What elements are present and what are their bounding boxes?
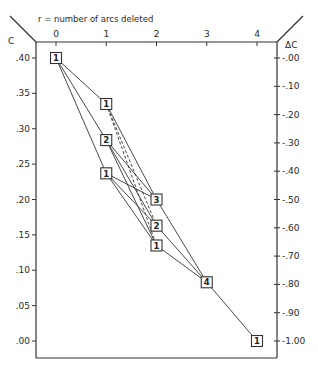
y-tick-label: .35 [16, 88, 30, 98]
node-label: 2 [154, 221, 160, 231]
y-tick-label: .20 [16, 195, 31, 205]
y-tick-label: .30 [16, 124, 31, 134]
node-box: 1 [252, 336, 263, 347]
right-y-tick-label: -.80 [282, 279, 300, 289]
node-label: 1 [154, 241, 160, 251]
right-y-tick-label: -.10 [282, 81, 300, 91]
chart-title: r = number of arcs deleted [38, 14, 153, 24]
node-box: 1 [51, 53, 62, 64]
plot-frame [10, 16, 303, 358]
x-tick-label: 3 [204, 29, 210, 39]
node-box: 3 [151, 194, 162, 205]
y-tick-label: .00 [16, 336, 31, 346]
y-axis-ticks-right: -.00-.10-.20-.30-.40-.50-.60-.70-.80-.90… [274, 53, 306, 346]
edge-line [106, 173, 156, 245]
x-tick-label: 2 [154, 29, 160, 39]
right-y-tick-label: -.90 [282, 308, 300, 318]
node-label: 4 [204, 277, 210, 287]
node-label: 1 [53, 53, 59, 63]
node-box: 1 [151, 240, 162, 251]
edge-line [157, 226, 207, 283]
right-y-tick-label: -.70 [282, 251, 300, 261]
node-box: 1 [101, 98, 112, 109]
node-label: 1 [254, 336, 260, 346]
right-y-tick-label: -.50 [282, 195, 300, 205]
node-box: 2 [151, 220, 162, 231]
right-y-tick-label: -.00 [282, 53, 300, 63]
right-axis-label: ΔC [285, 40, 297, 50]
node-label: 2 [103, 135, 109, 145]
y-tick-label: .05 [16, 301, 30, 311]
edge-line [56, 58, 106, 173]
edge-line [106, 173, 156, 199]
x-axis-ticks: 01234 [53, 29, 260, 46]
edge-line [56, 58, 106, 140]
y-tick-label: .40 [16, 53, 31, 63]
corner-diagonal-right [277, 16, 303, 42]
edge-line [106, 104, 156, 226]
right-y-tick-label: -1.00 [282, 336, 306, 346]
right-y-tick-label: -.40 [282, 166, 300, 176]
edge-line [157, 200, 207, 283]
edge-line [106, 104, 156, 200]
x-tick-label: 1 [103, 29, 109, 39]
edge-line [106, 140, 156, 199]
right-y-tick-label: -.30 [282, 138, 300, 148]
y-tick-label: .15 [16, 230, 30, 240]
edge-line [157, 245, 207, 282]
edge-line [106, 140, 156, 245]
y-axis-ticks-left: .40.35.30.25.20.15.10.05.00 [16, 53, 36, 346]
edge-line [207, 282, 257, 341]
edge-line [106, 140, 156, 226]
edge-line [56, 58, 106, 104]
arc-deletion-chart: r = number of arcs deleted C ΔC 01234 .4… [0, 0, 318, 372]
left-axis-label: C [8, 36, 14, 46]
x-tick-label: 4 [254, 29, 260, 39]
node-label: 1 [103, 169, 109, 179]
right-y-tick-label: -.60 [282, 223, 300, 233]
nodes: 112132141 [51, 53, 263, 347]
node-box: 4 [201, 277, 212, 288]
edge-line [106, 173, 156, 225]
node-label: 3 [154, 195, 160, 205]
node-box: 2 [101, 135, 112, 146]
node-label: 1 [103, 99, 109, 109]
x-tick-label: 0 [53, 29, 59, 39]
y-tick-label: .25 [16, 159, 30, 169]
right-y-tick-label: -.20 [282, 110, 300, 120]
edge-line [106, 104, 156, 246]
y-tick-label: .10 [16, 265, 31, 275]
node-box: 1 [101, 168, 112, 179]
